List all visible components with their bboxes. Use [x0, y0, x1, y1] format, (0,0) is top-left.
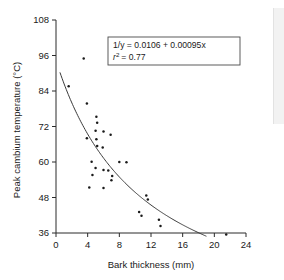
data-point: [102, 187, 105, 190]
r-exponent: 2: [116, 51, 120, 58]
page-edge-artifact: [273, 8, 284, 124]
data-point: [101, 146, 104, 149]
data-point: [110, 179, 113, 182]
x-axis-tick-label: 4: [85, 239, 90, 250]
y-axis-tick-label: 48: [38, 192, 49, 203]
equation-annotation-box: 1/y = 0.0106 + 0.00095x r2= 0.77: [108, 37, 240, 65]
y-axis: 364860728496108: [33, 14, 56, 238]
data-point: [225, 233, 228, 236]
scatter-plot: 364860728496108 04812162024 Bark thickne…: [0, 0, 284, 280]
x-axis: 04812162024: [53, 233, 251, 250]
y-axis-tick-label: 84: [38, 85, 49, 96]
data-point: [145, 194, 148, 197]
data-point: [88, 186, 91, 189]
data-point: [94, 167, 97, 170]
data-point: [109, 134, 112, 137]
x-axis-tick-label: 0: [53, 239, 58, 250]
data-point: [96, 121, 99, 124]
data-point: [95, 138, 98, 141]
y-axis-tick-label: 72: [38, 121, 49, 132]
x-axis-tick-label: 20: [209, 239, 220, 250]
data-point: [94, 129, 97, 132]
x-axis-tick-label: 24: [241, 239, 252, 250]
fit-curve-path: [60, 72, 206, 236]
data-points: [67, 57, 227, 236]
x-axis-tick-label: 16: [177, 239, 188, 250]
y-axis-title: Peak cambium temperature (°C): [11, 62, 22, 198]
data-point: [86, 137, 89, 140]
data-point: [95, 115, 98, 118]
data-point: [111, 175, 114, 178]
data-point: [159, 225, 162, 228]
data-point: [91, 174, 94, 177]
x-axis-tick-label: 12: [146, 239, 157, 250]
data-point: [125, 161, 128, 164]
data-point: [67, 85, 70, 88]
data-point: [140, 215, 143, 218]
data-point: [102, 130, 105, 133]
data-point: [118, 161, 121, 164]
data-point: [102, 169, 105, 172]
y-axis-tick-label: 108: [33, 14, 49, 25]
x-axis-tick-label: 8: [117, 239, 122, 250]
y-axis-tick-label: 60: [38, 156, 49, 167]
data-point: [138, 211, 141, 214]
data-point: [86, 102, 89, 105]
y-axis-tick-label: 36: [38, 227, 49, 238]
r-squared-value: = 0.77: [121, 52, 145, 62]
x-axis-title: Bark thickness (mm): [108, 259, 195, 270]
y-axis-tick-label: 96: [38, 50, 49, 61]
chart-figure: 364860728496108 04812162024 Bark thickne…: [0, 0, 284, 280]
data-point: [158, 218, 161, 221]
data-point: [96, 145, 99, 148]
data-point: [107, 169, 110, 172]
fit-curve: [60, 72, 206, 236]
data-point: [90, 160, 93, 163]
equation-line-1: 1/y = 0.0106 + 0.00095x: [113, 40, 206, 50]
data-point: [82, 57, 85, 60]
data-point: [147, 198, 150, 201]
